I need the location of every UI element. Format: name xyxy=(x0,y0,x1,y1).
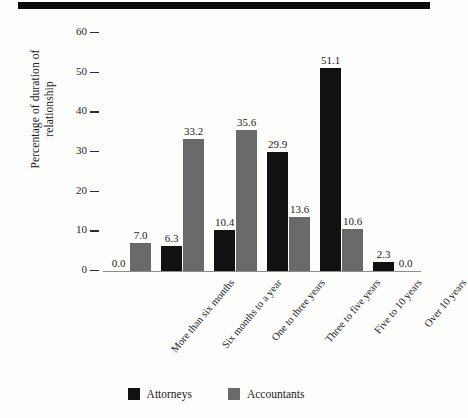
bar-group: 0.07.0 xyxy=(103,33,156,271)
bar-column[interactable]: 2.3 xyxy=(373,262,394,271)
y-axis-tick-label: 0 xyxy=(82,263,88,275)
bar-group: 10.435.6 xyxy=(209,33,262,271)
bar-column[interactable]: 35.6 xyxy=(236,130,257,271)
bar-column[interactable]: 10.4 xyxy=(214,230,235,271)
bar-attorneys[interactable] xyxy=(267,152,288,271)
y-axis-title: Percentage of duration of relationship xyxy=(22,4,64,214)
bar-value-label: 0.0 xyxy=(112,257,126,269)
bar-column[interactable]: 33.2 xyxy=(183,139,204,271)
bar-value-label: 29.9 xyxy=(268,138,287,150)
bar-value-label: 6.3 xyxy=(165,232,179,244)
bar-value-label: 10.4 xyxy=(215,216,234,228)
bar-accountants[interactable] xyxy=(236,130,257,271)
y-axis-tick-mark xyxy=(90,191,99,192)
bar-value-label: 33.2 xyxy=(184,125,203,137)
y-axis-tick-mark xyxy=(90,151,99,152)
bar-value-label: 35.6 xyxy=(237,116,256,128)
y-axis-tick-mark xyxy=(90,270,99,271)
bar-value-label: 51.1 xyxy=(321,54,340,66)
bar-value-label: 2.3 xyxy=(377,248,391,260)
bar-column[interactable]: 7.0 xyxy=(130,243,151,271)
y-axis-tick-label: 20 xyxy=(76,184,87,196)
bar-accountants[interactable] xyxy=(130,243,151,271)
y-axis-tick-label: 50 xyxy=(76,65,87,77)
y-axis-title-line-2: relationship xyxy=(43,81,57,137)
bar-group: 29.913.6 xyxy=(262,33,315,271)
legend-item-accountants[interactable]: Accountants xyxy=(228,388,304,400)
bar-column[interactable]: 13.6 xyxy=(289,217,310,271)
bar-column[interactable]: 29.9 xyxy=(267,152,288,271)
bar-group: 2.30.0 xyxy=(368,33,421,271)
y-axis-tick-label: 40 xyxy=(76,104,87,116)
plot-area: 0.07.06.333.210.435.629.913.651.110.62.3… xyxy=(103,33,421,271)
bar-column[interactable]: 6.3 xyxy=(161,246,182,271)
y-axis-tick-label: 10 xyxy=(76,223,87,235)
bar-group: 6.333.2 xyxy=(156,33,209,271)
bar-column[interactable]: 10.6 xyxy=(342,229,363,271)
x-axis-category-label: Over 10 years xyxy=(422,277,468,329)
x-axis-category-label: Three to five years xyxy=(323,277,382,345)
legend-swatch-icon xyxy=(128,388,140,400)
chart-legend: AttorneysAccountants xyxy=(0,388,432,400)
y-axis-tick-label: 30 xyxy=(76,144,87,156)
bar-value-label: 10.6 xyxy=(343,215,362,227)
y-axis-tick-mark xyxy=(90,230,99,231)
y-axis-tick-label: 60 xyxy=(76,25,87,37)
legend-swatch-icon xyxy=(228,388,240,400)
bar-attorneys[interactable] xyxy=(373,262,394,271)
x-axis-baseline xyxy=(103,271,421,272)
legend-label: Attorneys xyxy=(147,388,192,400)
bar-accountants[interactable] xyxy=(342,229,363,271)
bar-accountants[interactable] xyxy=(183,139,204,271)
y-axis-tick-mark xyxy=(90,32,99,33)
bar-column[interactable]: 51.1 xyxy=(320,68,341,271)
y-axis-tick-mark xyxy=(90,72,99,73)
bar-value-label: 13.6 xyxy=(290,203,309,215)
legend-item-attorneys[interactable]: Attorneys xyxy=(128,388,192,400)
bar-value-label: 7.0 xyxy=(134,229,148,241)
y-axis-tick-mark xyxy=(90,111,99,112)
bar-accountants[interactable] xyxy=(289,217,310,271)
bar-group: 51.110.6 xyxy=(315,33,368,271)
y-axis-title-line-1: Percentage of duration of xyxy=(29,49,43,168)
legend-label: Accountants xyxy=(247,388,304,400)
bar-attorneys[interactable] xyxy=(161,246,182,271)
bar-attorneys[interactable] xyxy=(214,230,235,271)
bar-attorneys[interactable] xyxy=(320,68,341,271)
bar-value-label: 0.0 xyxy=(399,257,413,269)
